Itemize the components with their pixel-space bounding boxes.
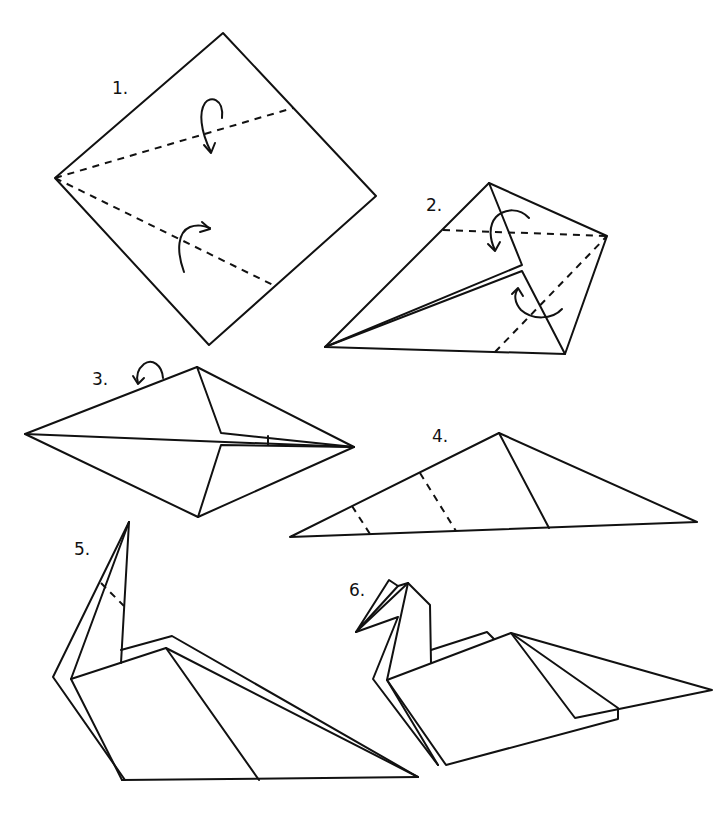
step-4-head-fold-line <box>352 506 370 534</box>
step-6-tail-wing <box>511 633 712 718</box>
step-1-lower-fold-line <box>55 178 273 285</box>
step-3-number: 3. <box>92 371 108 388</box>
step-3-turn-over-arrow-icon <box>133 362 163 384</box>
step-6-figure <box>356 580 712 765</box>
step-1-fold-arrow-upper-icon <box>201 99 222 153</box>
step-2-number: 2. <box>426 197 442 214</box>
step-2-upper-fold-line <box>443 230 607 236</box>
step-5-front-wing <box>71 648 418 777</box>
step-2-figure <box>325 183 607 354</box>
step-1-upper-fold-line <box>55 108 293 178</box>
step-1-fold-arrow-lower-icon <box>179 222 210 272</box>
step-2-fold-arrow-lower-icon <box>512 288 562 317</box>
step-3-figure <box>25 362 354 517</box>
step-4-inner-edge <box>499 433 549 528</box>
step-5-figure <box>53 522 418 780</box>
step-2-upper-flap <box>325 183 522 347</box>
step-5-neck-inner <box>71 522 129 780</box>
step-5-back-wing <box>121 636 418 777</box>
step-1-figure <box>55 33 376 345</box>
step-5-head-fold-line <box>101 583 124 606</box>
step-2-lower-flap <box>325 271 565 354</box>
step-5-base <box>122 777 418 780</box>
step-3-center-line <box>25 434 354 447</box>
step-6-number: 6. <box>349 582 365 599</box>
step-4-neck-fold-line <box>420 473 456 531</box>
origami-diagram <box>0 0 728 821</box>
step-6-head <box>398 583 431 663</box>
step-4-number: 4. <box>432 428 448 445</box>
step-1-square <box>55 33 376 345</box>
step-5-wing-fold <box>166 648 259 780</box>
step-6-back-wing <box>431 632 494 650</box>
step-5-number: 5. <box>74 541 90 558</box>
step-1-number: 1. <box>112 80 128 97</box>
step-5-neck-outer <box>53 522 129 780</box>
